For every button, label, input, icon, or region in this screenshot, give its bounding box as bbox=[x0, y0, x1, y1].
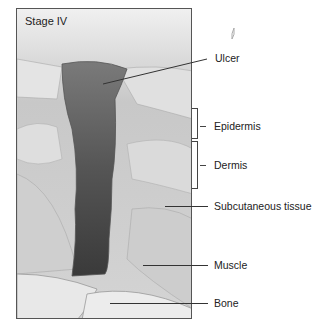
label-epidermis: Epidermis bbox=[214, 120, 261, 132]
label-ulcer: Ulcer bbox=[215, 52, 240, 64]
label-dermis: Dermis bbox=[214, 159, 247, 171]
label-subcutaneous: Subcutaneous tissue bbox=[214, 200, 311, 212]
muscle-leader bbox=[143, 265, 208, 266]
label-muscle: Muscle bbox=[214, 259, 247, 271]
label-bone: Bone bbox=[214, 297, 239, 309]
dermis-tick bbox=[200, 165, 206, 166]
subcutaneous-leader bbox=[165, 206, 208, 207]
epidermis-tick bbox=[200, 126, 206, 127]
leader-lines bbox=[0, 0, 321, 327]
epidermis-bracket bbox=[192, 108, 198, 139]
bone-leader bbox=[110, 303, 208, 304]
dermis-bracket bbox=[192, 141, 198, 189]
